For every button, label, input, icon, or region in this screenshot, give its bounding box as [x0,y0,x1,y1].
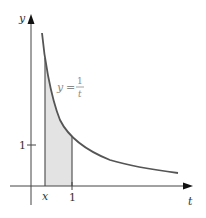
t-tick-one-label: 1 [69,191,76,204]
equation-lhs: y [56,81,64,94]
t-axis-arrow-icon [183,183,193,190]
equation-equals: = [66,81,75,94]
y-axis-label: y [18,12,26,25]
x-tick-label: x [42,190,49,203]
equation-denominator: t [78,89,82,99]
t-axis-label: t [188,195,193,208]
y-tick-one-label: 1 [19,139,26,152]
equation-numerator: 1 [77,76,83,86]
curve-equation-label: y = 1 t [56,76,84,99]
y-axis-arrow-icon [28,14,35,24]
reciprocal-area-diagram: y t 1 x 1 y = 1 t [0,0,206,218]
